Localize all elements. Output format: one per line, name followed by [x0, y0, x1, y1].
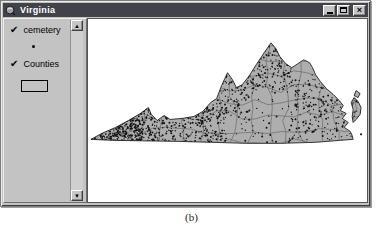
minimize-icon [327, 12, 333, 14]
layer-label-cemetery: cemetery [23, 25, 60, 35]
window-content: ✔ cemetery ✔ Counties ▲ [3, 18, 368, 203]
virginia-map [88, 19, 367, 202]
point-symbol-swatch[interactable] [32, 45, 35, 48]
close-icon: × [357, 6, 362, 15]
scrollbar-track[interactable] [71, 31, 83, 190]
minimize-button[interactable] [323, 5, 336, 16]
layer-panel: ✔ cemetery ✔ Counties ▲ [3, 18, 87, 203]
maximize-button[interactable] [337, 5, 350, 16]
app-icon [5, 5, 16, 16]
virginia-window: Virginia × ✔ cemetery [0, 0, 371, 207]
layer-item-counties[interactable]: ✔ Counties [4, 57, 70, 70]
window-title: Virginia [20, 5, 319, 16]
scroll-down-button[interactable]: ▼ [71, 190, 83, 201]
legend-list: ✔ cemetery ✔ Counties [4, 19, 70, 202]
maximize-icon [340, 7, 347, 13]
scroll-up-button[interactable]: ▲ [71, 20, 83, 31]
layer-label-counties: Counties [23, 59, 59, 69]
toc-scrollbar[interactable]: ▲ ▼ [70, 20, 83, 201]
window-controls: × [323, 5, 366, 16]
title-bar[interactable]: Virginia × [3, 3, 368, 17]
figure-page: Virginia × ✔ cemetery [0, 0, 383, 231]
close-button[interactable]: × [353, 5, 366, 16]
layer-item-cemetery[interactable]: ✔ cemetery [4, 23, 70, 36]
figure-caption: (b) [0, 211, 383, 223]
map-view[interactable] [87, 18, 368, 203]
polygon-symbol-swatch[interactable] [21, 80, 48, 92]
checkbox-cemetery[interactable]: ✔ [10, 25, 18, 35]
cemetery-dot-offshore [360, 133, 362, 135]
scroll-down-icon: ▼ [74, 193, 80, 199]
scroll-up-icon: ▲ [74, 23, 80, 29]
checkbox-counties[interactable]: ✔ [10, 59, 18, 69]
